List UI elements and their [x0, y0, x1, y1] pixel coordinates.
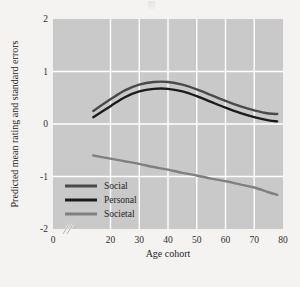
x-tick-labels: 020304050607080: [51, 235, 288, 245]
legend-label-personal: Personal: [104, 195, 137, 205]
y-axis-title: Predicted mean rating and standard error…: [9, 40, 20, 207]
x-tick-label-0: 0: [51, 235, 56, 245]
x-tick-label-50: 50: [192, 235, 202, 245]
figure-container: 020304050607080 -2-1012 Age cohort Predi…: [0, 0, 300, 287]
y-tick-label-2: 2: [43, 14, 48, 24]
x-tick-label-70: 70: [250, 235, 260, 245]
scan-artifact: [148, 1, 155, 10]
x-tick-label-30: 30: [135, 235, 145, 245]
y-tick-label-1: 1: [43, 67, 48, 77]
line-chart: 020304050607080 -2-1012 Age cohort Predi…: [0, 0, 300, 287]
x-axis-title: Age cohort: [146, 248, 191, 259]
x-tick-label-60: 60: [221, 235, 231, 245]
x-tick-label-20: 20: [106, 235, 116, 245]
y-tick-labels: -2-1012: [40, 14, 48, 234]
y-tick-label--1: -1: [40, 172, 48, 182]
y-tick-label--2: -2: [40, 224, 48, 234]
legend-label-societal: Societal: [104, 209, 135, 219]
x-tick-label-40: 40: [163, 235, 173, 245]
legend-label-social: Social: [104, 181, 128, 191]
y-tick-label-0: 0: [43, 119, 48, 129]
x-tick-label-80: 80: [278, 235, 288, 245]
